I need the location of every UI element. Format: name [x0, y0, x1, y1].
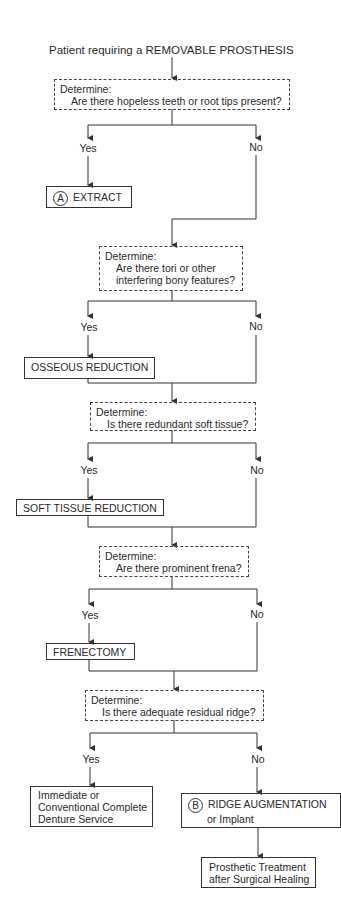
decision-heading: Determine:: [60, 83, 284, 95]
branch-no-label: No: [250, 608, 263, 620]
flowchart-title: Patient requiring a REMOVABLE PROSTHESIS: [49, 44, 294, 56]
action-frenectomy: FRENECTOMY: [46, 643, 135, 660]
marker-a-icon: A: [53, 191, 68, 206]
outcome-line3: Denture Service: [38, 813, 145, 825]
decision-question-line2: interfering bony features?: [105, 274, 237, 286]
decision-heading: Determine:: [105, 250, 237, 262]
decision-residual-ridge: Determine: Is there adequate residual ri…: [85, 690, 264, 721]
action-extract: AEXTRACT: [46, 186, 132, 208]
outcome-line2: Conventional Complete: [38, 801, 145, 813]
outcome-denture-service: Immediate or Conventional Complete Dentu…: [30, 786, 153, 827]
action-soft-tissue-reduction: SOFT TISSUE REDUCTION: [16, 499, 164, 516]
decision-question: Is there adequate residual ridge?: [91, 706, 258, 718]
decision-question: Is there redundant soft tissue?: [96, 418, 250, 430]
branch-no-label: No: [250, 464, 263, 476]
branch-yes-label: Yes: [80, 464, 97, 476]
branch-no-label: No: [249, 320, 262, 332]
decision-tori: Determine: Are there tori or other inter…: [99, 246, 243, 291]
branch-no-label: No: [251, 753, 264, 765]
branch-yes-label: Yes: [79, 142, 96, 154]
branch-yes-label: Yes: [82, 753, 99, 765]
branch-no-label: No: [249, 141, 262, 153]
decision-soft-tissue: Determine: Is there redundant soft tissu…: [90, 402, 256, 431]
outcome-line1: Prosthetic Treatment: [209, 861, 308, 873]
outcome-line1: Immediate or: [38, 789, 145, 801]
action-label: EXTRACT: [73, 191, 122, 203]
decision-frena: Determine: Are there prominent frena?: [99, 546, 249, 577]
action-osseous-reduction: OSSEOUS REDUCTION: [24, 357, 155, 379]
branch-yes-label: Yes: [80, 321, 97, 333]
decision-question: Are there hopeless teeth or root tips pr…: [60, 95, 284, 107]
outcome-line2: after Surgical Healing: [209, 873, 308, 885]
action-ridge-augmentation: BRIDGE AUGMENTATION or Implant: [181, 793, 341, 828]
marker-b-icon: B: [188, 798, 203, 813]
decision-heading: Determine:: [91, 694, 258, 706]
decision-question-line1: Are there tori or other: [105, 262, 237, 274]
action-line1: RIDGE AUGMENTATION: [208, 798, 327, 810]
decision-heading: Determine:: [105, 550, 243, 562]
decision-question: Are there prominent frena?: [105, 562, 243, 574]
outcome-prosthetic-treatment: Prosthetic Treatment after Surgical Heal…: [201, 857, 316, 888]
decision-heading: Determine:: [96, 406, 250, 418]
action-line2: or Implant: [188, 813, 334, 825]
branch-yes-label: Yes: [81, 609, 98, 621]
decision-hopeless-teeth: Determine: Are there hopeless teeth or r…: [54, 79, 290, 110]
